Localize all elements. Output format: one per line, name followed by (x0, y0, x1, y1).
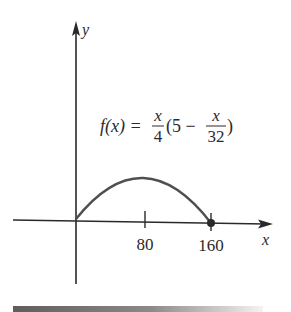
x-tick-label-80: 80 (137, 235, 154, 254)
y-axis-label: y (80, 21, 90, 39)
function-close-paren: ) (227, 116, 233, 137)
function-graph: y x 80 160 f(x) = x 4 (5 − x 32 ) (0, 0, 291, 312)
frac1-denominator: 4 (154, 127, 163, 146)
frac2-denominator: 32 (208, 127, 225, 146)
bottom-rule (13, 306, 263, 312)
function-lhs: f(x) = (100, 116, 142, 137)
function-curve (76, 178, 211, 223)
frac1-numerator: x (153, 106, 162, 125)
root-point-marker (207, 219, 215, 227)
function-label: f(x) = x 4 (5 − x 32 ) (100, 106, 233, 146)
y-axis: y (72, 21, 90, 284)
x-axis-label: x (261, 231, 269, 248)
frac2-numerator: x (211, 106, 220, 125)
function-middle: (5 − (166, 116, 196, 137)
x-tick-label-160: 160 (198, 236, 224, 255)
x-tick-80: 80 (137, 211, 154, 254)
svg-text:f(x) =: f(x) = (100, 116, 142, 137)
